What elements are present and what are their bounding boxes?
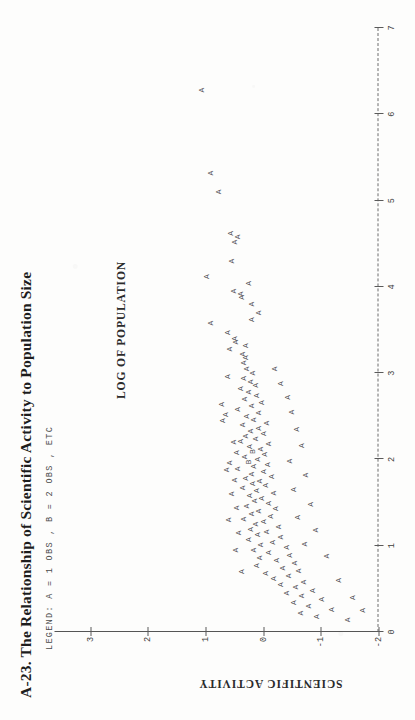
data-point: A xyxy=(251,563,260,568)
data-point: A xyxy=(251,436,260,441)
data-point: A xyxy=(225,460,234,465)
data-point: A xyxy=(342,618,351,623)
data-point: A xyxy=(224,517,233,522)
data-point: A xyxy=(303,604,312,609)
data-point: A xyxy=(247,302,256,307)
data-point: A xyxy=(348,595,357,600)
data-point: A xyxy=(285,553,294,558)
y-tick-label: 2 xyxy=(142,637,152,649)
data-point: A xyxy=(264,550,273,555)
data-point: A xyxy=(232,407,241,412)
data-point: A xyxy=(222,374,231,379)
data-point: A xyxy=(281,591,290,596)
x-tick-label: 5 xyxy=(386,198,396,203)
x-tick xyxy=(374,631,383,632)
data-point: A xyxy=(278,566,287,571)
data-point: A xyxy=(296,443,305,448)
x-axis-label: LOG OF POPULATION xyxy=(114,28,126,632)
x-tick xyxy=(374,372,383,373)
data-point: A xyxy=(290,561,299,566)
data-point: A xyxy=(322,554,331,559)
data-point: A xyxy=(239,397,248,402)
y-tick xyxy=(320,627,321,636)
figure-page: A-23. The Relationship of Scientific Act… xyxy=(0,0,415,720)
data-point: A xyxy=(259,519,268,524)
data-point: A xyxy=(294,568,303,573)
data-point: A xyxy=(285,459,294,464)
y-tick-label: 1 xyxy=(200,637,210,649)
data-point: A xyxy=(267,540,276,545)
data-point: A xyxy=(288,600,297,605)
data-point: A xyxy=(196,88,205,93)
data-point: A xyxy=(247,404,256,409)
data-point: A xyxy=(357,608,366,613)
data-point: A xyxy=(311,614,320,619)
data-point: A xyxy=(236,295,245,300)
y-tick xyxy=(263,627,264,636)
x-axis xyxy=(377,28,378,632)
data-point: A xyxy=(232,505,241,510)
data-point: A xyxy=(333,578,342,583)
data-point: A xyxy=(236,569,245,574)
data-point: A xyxy=(264,442,273,447)
data-point: A xyxy=(232,450,241,455)
x-tick-label: 0 xyxy=(386,629,396,634)
data-point: A xyxy=(249,464,258,469)
data-point: A xyxy=(284,574,293,579)
data-point: A xyxy=(326,607,335,612)
figure-title: A-23. The Relationship of Scientific Act… xyxy=(16,272,34,698)
data-point: A xyxy=(249,417,258,422)
data-point: A xyxy=(226,259,235,264)
data-point: A xyxy=(296,593,305,598)
data-point: A xyxy=(230,340,239,345)
data-point: A xyxy=(295,611,304,616)
data-point: A xyxy=(250,383,259,388)
data-point: A xyxy=(269,576,278,581)
data-point: A xyxy=(230,548,239,553)
data-point: A xyxy=(305,502,314,507)
x-tick xyxy=(374,27,383,28)
data-point: A xyxy=(213,190,222,195)
scatter-plot: AAAAAAAAAAAAAAAAAAAAAAAAAAAAAAAAAAAAAAAA… xyxy=(78,28,378,632)
data-point: A xyxy=(205,171,214,176)
data-point: A xyxy=(310,528,319,533)
data-point: A xyxy=(225,347,234,352)
data-point: A xyxy=(221,467,230,472)
y-axis-label: SCIENTIFIC ACTIVITY xyxy=(198,678,342,690)
data-point: A xyxy=(247,317,256,322)
data-point: A xyxy=(251,393,260,398)
x-tick xyxy=(374,286,383,287)
data-point: A xyxy=(300,542,309,547)
y-tick xyxy=(147,627,148,636)
data-point: A xyxy=(288,487,297,492)
data-point: A xyxy=(287,410,296,415)
data-point: A xyxy=(262,530,271,535)
data-point: A xyxy=(308,588,317,593)
data-point: A xyxy=(272,558,281,563)
data-point: A xyxy=(248,371,257,376)
data-point: A xyxy=(270,366,279,371)
data-point: A xyxy=(229,478,238,483)
data-point: A xyxy=(230,240,239,245)
data-point: A xyxy=(239,360,248,365)
data-point: A xyxy=(239,517,248,522)
data-point: A xyxy=(255,555,264,560)
data-point: A xyxy=(202,274,211,279)
data-point: A xyxy=(237,486,246,491)
data-point: A xyxy=(252,532,261,537)
x-tick-label: 3 xyxy=(386,371,396,376)
x-tick-label: 6 xyxy=(386,112,396,117)
y-tick xyxy=(205,627,206,636)
data-point: A xyxy=(243,281,252,286)
x-tick-label: 2 xyxy=(386,457,396,462)
data-point: A xyxy=(269,491,278,496)
data-point: A xyxy=(241,343,250,348)
data-point: A xyxy=(271,506,280,511)
data-point: A xyxy=(227,492,236,497)
data-point: A xyxy=(282,395,291,400)
data-point: A xyxy=(275,582,284,587)
data-point: A xyxy=(218,418,227,423)
data-point: A xyxy=(266,474,275,479)
y-axis xyxy=(54,631,378,632)
data-point: A xyxy=(233,467,242,472)
